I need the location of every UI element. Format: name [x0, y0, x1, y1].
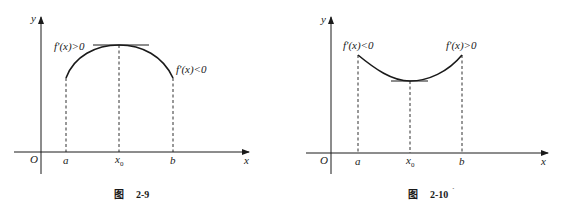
tick-x0: x0 — [405, 154, 415, 169]
tick-a: a — [63, 154, 69, 166]
diagram-canvas: y O x f'(x)>0 f'(x)<0 a x0 b 图 2-9 y O x… — [0, 0, 562, 217]
y-axis-label: y — [30, 12, 36, 24]
left-derivative-label: f'(x)<0 — [343, 39, 374, 52]
tick-x0: x0 — [114, 153, 124, 168]
concave-up-curve — [358, 55, 462, 81]
origin-label: O — [30, 153, 38, 165]
caption-char: 图 — [114, 189, 124, 200]
figure-2-9: y O x f'(x)>0 f'(x)<0 a x0 b 图 2-9 — [14, 12, 249, 200]
caption-char: 图 — [408, 189, 418, 200]
right-derivative-label: f'(x)<0 — [176, 63, 207, 76]
origin-label: O — [320, 154, 328, 166]
tick-b: b — [170, 154, 176, 166]
caption-number: 2-10 — [430, 189, 448, 200]
caption-number: 2-9 — [136, 189, 149, 200]
right-derivative-label: f'(x)>0 — [446, 39, 477, 52]
figure-2-10: y O x f'(x)<0 f'(x)>0 a x0 b 图 2-10 ´ — [306, 13, 548, 200]
x-axis-label: x — [540, 155, 546, 167]
caption-mark: ´ — [452, 186, 454, 194]
left-derivative-label: f'(x)>0 — [54, 40, 85, 53]
y-axis-label: y — [320, 13, 326, 25]
tick-b: b — [459, 155, 465, 167]
tick-a: a — [355, 155, 361, 167]
x-axis-label: x — [243, 154, 249, 166]
